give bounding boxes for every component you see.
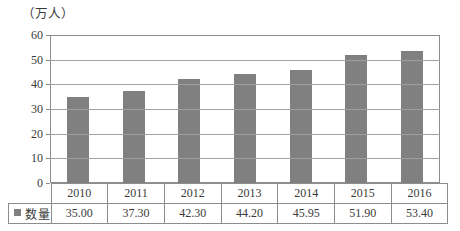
plot-wrapper: 0102030405060 [50, 35, 440, 183]
gridline [50, 60, 440, 61]
y-axis-tick-label: 40 [31, 77, 43, 92]
bar [290, 70, 312, 183]
table-cell-value: 53.40 [391, 204, 448, 224]
bar [401, 51, 423, 183]
table-cell-category: 2013 [221, 184, 278, 204]
table-cell-category: 2016 [391, 184, 448, 204]
table-cell-value: 45.95 [278, 204, 335, 224]
y-axis-tick [46, 35, 50, 36]
table-cell-category: 2014 [278, 184, 335, 204]
y-axis-tick [46, 158, 50, 159]
table-cell-value: 42.30 [164, 204, 221, 224]
gridline [50, 158, 440, 159]
y-axis-tick-label: 20 [31, 126, 43, 141]
table-cell-value: 37.30 [108, 204, 165, 224]
bar [345, 55, 367, 183]
legend-swatch-icon [14, 209, 21, 216]
y-axis-tick [46, 109, 50, 110]
table-cell-category: 2011 [108, 184, 165, 204]
y-axis-tick [46, 84, 50, 85]
table-cell-value: 44.20 [221, 204, 278, 224]
table-corner-blank [9, 184, 52, 204]
table-cell-value: 51.90 [335, 204, 392, 224]
table-row-values: 数量 35.0037.3042.3044.2045.9551.9053.40 [9, 204, 448, 224]
gridline [50, 109, 440, 110]
y-axis-tick-label: 60 [31, 28, 43, 43]
table-cell-category: 2012 [164, 184, 221, 204]
data-table: 2010201120122013201420152016 数量 35.0037.… [8, 183, 448, 224]
gridline [50, 134, 440, 135]
y-axis-tick [46, 134, 50, 135]
y-axis-tick-label: 10 [31, 151, 43, 166]
bar [123, 91, 145, 183]
bar-chart-figure: （万人） 0102030405060 201020112012201320142… [0, 0, 460, 231]
table-row-categories: 2010201120122013201420152016 [9, 184, 448, 204]
gridline [50, 84, 440, 85]
y-axis-tick-label: 50 [31, 52, 43, 67]
legend-label: 数量 [25, 208, 51, 222]
y-axis-tick [46, 60, 50, 61]
y-axis-unit-label: （万人） [22, 3, 74, 22]
table-cell-value: 35.00 [51, 204, 108, 224]
bar [178, 79, 200, 183]
bar [234, 74, 256, 183]
table-cell-category: 2010 [51, 184, 108, 204]
table-cell-category: 2015 [335, 184, 392, 204]
y-axis-tick-label: 30 [31, 102, 43, 117]
legend-cell: 数量 [9, 204, 52, 224]
